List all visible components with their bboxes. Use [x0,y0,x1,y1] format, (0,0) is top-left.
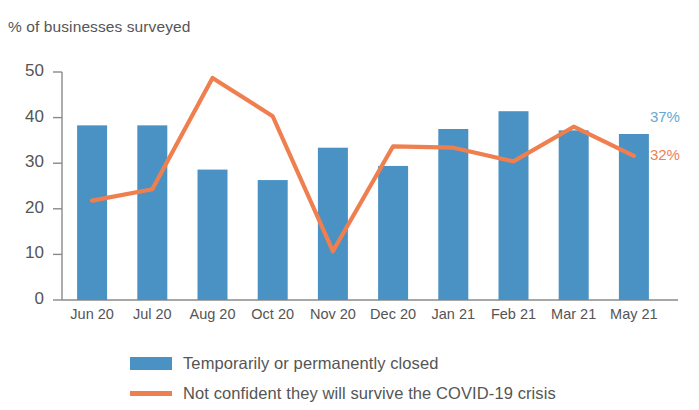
x-tick-label: Nov 20 [303,306,363,322]
legend-swatch-line-icon [130,391,172,396]
x-tick-label: Jun 20 [62,306,122,322]
bar [137,125,167,300]
x-tick-label: Aug 20 [182,306,242,322]
chart-legend: Temporarily or permanently closed Not co… [0,348,699,408]
y-tick-label: 30 [10,152,44,172]
bar [258,180,288,300]
y-tick-label: 20 [10,198,44,218]
chart-container: % of businesses surveyed 01020304050 Jun… [0,0,699,410]
x-tick-label: Oct 20 [243,306,303,322]
bar [619,134,649,300]
legend-label-line: Not confident they will survive the COVI… [183,384,556,403]
plot-svg [0,0,699,340]
plot-area: 01020304050 Jun 20Jul 20Aug 20Oct 20Nov … [0,0,699,340]
bar [559,130,589,300]
annotation-bar: 37% [650,108,680,125]
y-tick-label: 10 [10,243,44,263]
y-tick-label: 50 [10,61,44,81]
x-tick-label: Dec 20 [363,306,423,322]
bar [198,170,228,300]
y-tick-label: 40 [10,107,44,127]
legend-swatch-bar-icon [130,357,172,370]
x-tick-label: Jul 20 [122,306,182,322]
bar [77,125,107,300]
bar [499,111,529,300]
y-tick-label: 0 [10,289,44,309]
bar [438,129,468,300]
x-tick-label: May 21 [604,306,664,322]
bar [378,166,408,300]
annotation-line: 32% [650,146,680,163]
x-tick-label: Mar 21 [544,306,604,322]
legend-label-bar: Temporarily or permanently closed [183,354,439,373]
x-tick-label: Feb 21 [483,306,543,322]
legend-item-line: Not confident they will survive the COVI… [0,378,699,408]
x-tick-label: Jan 21 [423,306,483,322]
trend-line [92,78,634,251]
legend-item-bar: Temporarily or permanently closed [0,348,699,378]
